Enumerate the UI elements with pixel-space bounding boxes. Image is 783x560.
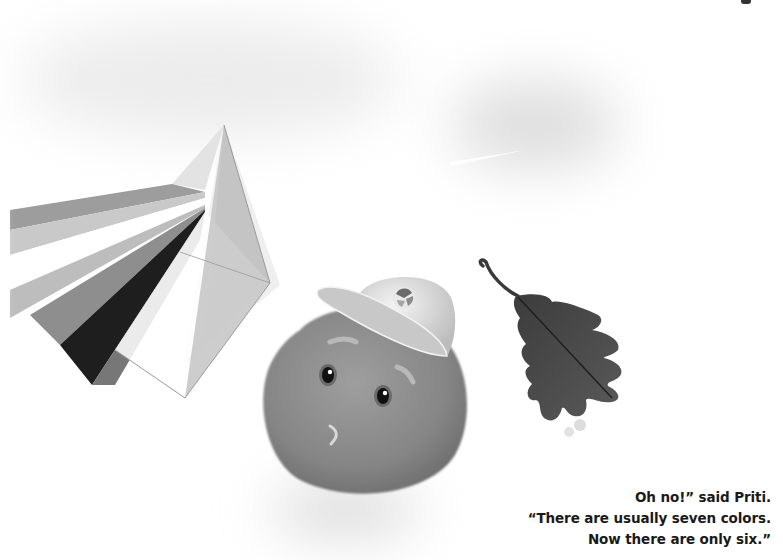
leaf-blade: [514, 294, 622, 420]
light-streak: [450, 150, 525, 166]
prism: [0, 125, 280, 398]
caption-line-2: “There are usually seven colors.: [528, 508, 771, 529]
oak-leaf: [480, 260, 621, 420]
leaf-stem: [480, 260, 518, 296]
cap-logo: [393, 287, 415, 309]
story-caption: Oh no!” said Priti. “There are usually s…: [528, 487, 771, 550]
bubble-2: [574, 419, 586, 431]
illustration-svg: [0, 0, 783, 560]
storybook-page: Oh no!” said Priti. “There are usually s…: [0, 0, 783, 560]
bubble-1: [564, 427, 574, 437]
caption-line-3: Now there are only six.”: [528, 529, 771, 550]
corner-mark: [741, 0, 751, 4]
caption-line-1: Oh no!” said Priti.: [528, 487, 771, 508]
character-priti: [263, 277, 467, 494]
